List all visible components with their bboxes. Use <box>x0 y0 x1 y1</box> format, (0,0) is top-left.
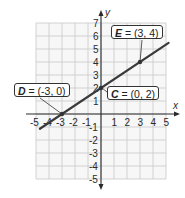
y-tick-label: -5 <box>89 174 98 185</box>
x-tick-label: 5 <box>164 117 170 128</box>
x-axis-label: x <box>172 100 179 111</box>
x-tick-label: 4 <box>151 117 157 128</box>
y-tick-label: -3 <box>89 148 98 159</box>
y-tick-label: 4 <box>93 57 99 68</box>
label-e-coords: (3, 4) <box>134 27 159 39</box>
y-tick-label: 6 <box>93 31 99 42</box>
label-d-eq: = <box>26 85 38 97</box>
x-axis-arrow-icon <box>174 112 180 117</box>
y-tick-label: -4 <box>89 161 98 172</box>
y-tick-label: -1 <box>89 122 98 133</box>
label-point-d: D = (-3, 0) <box>14 83 70 97</box>
point-c <box>99 86 103 90</box>
y-tick-label: 5 <box>93 44 99 55</box>
label-e-name: E <box>115 27 122 39</box>
label-e-eq: = <box>122 27 134 39</box>
y-tick-label: 1 <box>93 96 99 107</box>
point-d <box>60 112 64 116</box>
label-d-coords: (-3, 0) <box>38 85 66 97</box>
label-c-name: C <box>111 88 119 100</box>
x-tick-label: -3 <box>56 117 65 128</box>
y-axis-label: y <box>104 7 111 18</box>
x-tick-label: 1 <box>112 117 118 128</box>
label-d-name: D <box>18 85 26 97</box>
y-axis-arrow-down-icon <box>99 184 104 190</box>
x-tick-label: -2 <box>69 117 78 128</box>
label-point-e: E = (3, 4) <box>111 25 163 39</box>
point-e <box>138 60 142 64</box>
label-c-eq: = <box>119 88 131 100</box>
label-c-coords: (0, 2) <box>131 88 156 100</box>
x-tick-label: 3 <box>138 117 144 128</box>
y-tick-label: 7 <box>93 18 99 29</box>
x-tick-label: -5 <box>30 117 39 128</box>
label-point-c: C = (0, 2) <box>107 86 159 100</box>
y-tick-label: 3 <box>93 70 99 81</box>
y-axis-arrow-icon <box>99 10 104 16</box>
x-tick-label: 2 <box>125 117 131 128</box>
y-tick-label: -2 <box>89 135 98 146</box>
